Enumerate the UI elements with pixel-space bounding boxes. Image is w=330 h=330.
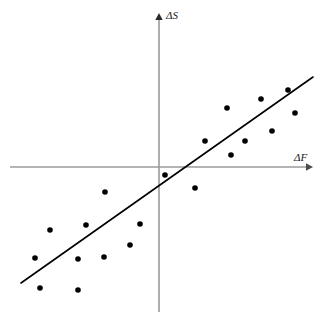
data-point [32,255,38,261]
trend-line [21,77,313,283]
data-point [75,256,81,262]
y-axis-arrowhead [155,13,162,20]
x-axis-arrowhead [306,163,313,171]
data-point [162,172,168,178]
data-point [101,254,107,260]
data-point [192,185,198,191]
data-point [242,138,248,144]
plot-canvas [0,0,330,330]
data-point [269,128,275,134]
data-points-group [32,87,298,293]
regression-line [21,77,313,283]
data-point [292,110,298,116]
data-point [202,138,208,144]
data-point [37,285,43,291]
x-axis-label: ΔF [294,152,307,163]
data-point [228,152,234,158]
data-point [102,189,108,195]
data-point [224,105,230,111]
data-point [83,222,89,228]
data-point [258,96,264,102]
data-point [137,221,143,227]
scatter-plot-figure: ΔS ΔF [0,0,330,330]
data-point [47,227,53,233]
data-point [285,87,291,93]
y-axis-label: ΔS [166,10,178,21]
axes-group [10,13,313,312]
data-point [75,287,81,293]
data-point [127,242,133,248]
